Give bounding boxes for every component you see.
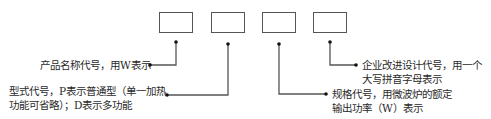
label-design-code: 企业改进设计代号，用一个 大写拼音字母表示 bbox=[362, 58, 482, 86]
label-model-code: 型式代号，P表示普通型（单一加热 功能可省略）；D表示多功能 bbox=[9, 84, 166, 112]
label-design-code-line1: 企业改进设计代号，用一个 bbox=[362, 58, 482, 72]
connector-product-name bbox=[150, 42, 176, 65]
label-spec-code-line1: 规格代号，用微波炉的额定 bbox=[332, 87, 452, 101]
label-product-name-text: 产品名称代号，用W表示 bbox=[40, 59, 151, 71]
label-model-code-line2: 功能可省略）；D表示多功能 bbox=[9, 98, 166, 112]
connector-design-revision bbox=[330, 42, 356, 65]
label-design-code-line2: 大写拼音字母表示 bbox=[362, 72, 482, 86]
label-product-name-code: 产品名称代号，用W表示 bbox=[40, 58, 151, 72]
label-model-code-line1: 型式代号，P表示普通型（单一加热 bbox=[9, 84, 166, 98]
connector-specification bbox=[279, 44, 326, 94]
label-spec-code-line2: 输出功率（W）表示 bbox=[332, 101, 452, 115]
label-spec-code: 规格代号，用微波炉的额定 输出功率（W）表示 bbox=[332, 87, 452, 115]
